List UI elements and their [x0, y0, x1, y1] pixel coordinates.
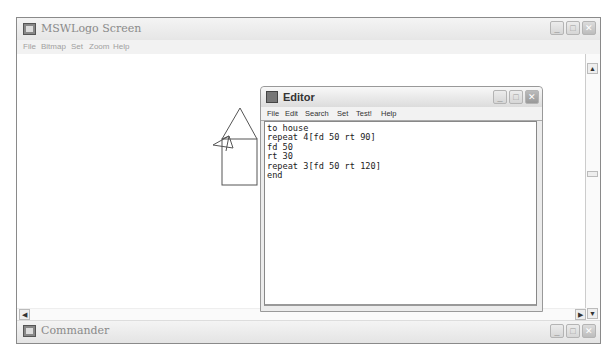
main-menubar: File Bitmap Set Zoom Help [17, 40, 600, 54]
editor-code-area[interactable]: to house repeat 4[fd 50 rt 90] fd 50 rt … [264, 121, 537, 306]
editor-menu-edit[interactable]: Edit [285, 109, 298, 118]
main-titlebar[interactable]: MSWLogo Screen _ □ ✕ [17, 18, 600, 40]
vertical-scrollbar[interactable]: ▲ ▼ [585, 54, 600, 321]
menu-set[interactable]: Set [71, 42, 83, 51]
editor-title: Editor [283, 91, 315, 103]
editor-menubar: File Edit Search Set Test! Help [261, 107, 542, 121]
editor-minimize-button[interactable]: _ [493, 90, 507, 104]
menu-bitmap[interactable]: Bitmap [41, 42, 66, 51]
scroll-right-button[interactable]: ▶ [575, 309, 586, 320]
scroll-down-button[interactable]: ▼ [587, 308, 598, 319]
menu-zoom[interactable]: Zoom [89, 42, 109, 51]
commander-icon [23, 325, 36, 337]
scroll-thumb[interactable] [587, 171, 598, 177]
minimize-button[interactable]: _ [550, 21, 564, 35]
logo-app-icon [23, 23, 36, 35]
scroll-left-button[interactable]: ◀ [19, 309, 30, 320]
commander-window[interactable]: Commander _ □ ✕ [17, 320, 600, 343]
commander-maximize-button[interactable]: □ [566, 324, 580, 338]
main-window-title: MSWLogo Screen [41, 22, 141, 35]
editor-menu-test[interactable]: Test! [356, 109, 372, 118]
commander-minimize-button[interactable]: _ [550, 324, 564, 338]
menu-file[interactable]: File [23, 42, 36, 51]
menu-help[interactable]: Help [113, 42, 129, 51]
editor-titlebar[interactable]: Editor _ □ ✕ [261, 87, 542, 107]
editor-icon [266, 91, 278, 103]
maximize-button[interactable]: □ [566, 21, 580, 35]
editor-menu-file[interactable]: File [267, 109, 279, 118]
scroll-up-button[interactable]: ▲ [587, 63, 598, 74]
editor-menu-search[interactable]: Search [305, 109, 329, 118]
editor-close-button[interactable]: ✕ [525, 90, 539, 104]
commander-title: Commander [41, 324, 109, 337]
editor-menu-help[interactable]: Help [381, 109, 396, 118]
editor-window: Editor _ □ ✕ File Edit Search Set Test! … [260, 86, 543, 312]
close-button[interactable]: ✕ [582, 21, 596, 35]
commander-close-button[interactable]: ✕ [582, 324, 596, 338]
editor-menu-set[interactable]: Set [337, 109, 348, 118]
editor-maximize-button[interactable]: □ [509, 90, 523, 104]
